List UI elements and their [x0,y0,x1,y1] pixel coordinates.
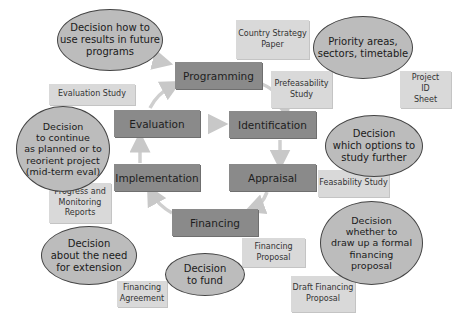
project-cycle-diagram: Programming Identification Appraisal Fin… [0,0,464,322]
phase-identification: Identification [229,111,316,138]
decision-fund: Decision to fund [165,253,245,296]
doc-financing-agreement: Financing Agreement [117,281,167,307]
doc-prefeasability-study: Prefeasability Study [271,71,332,108]
phase-financing: Financing [172,209,258,236]
arrow-decision-programming [155,60,163,62]
decision-continue: Decision to continue as planned or to re… [16,106,110,192]
decision-future-programs: Decision how to use results in future pr… [57,9,163,71]
decision-formal-proposal: Decision whether to draw up a formal fin… [320,201,423,285]
arrow-appraisal-financing [254,192,267,208]
phase-evaluation: Evaluation [114,110,200,137]
decision-options: Decision which options to study further [325,115,423,177]
phase-label: Appraisal [248,172,297,184]
arrow-evaluation-programming [150,86,172,108]
doc-financing-proposal: Financing Proposal [242,238,305,267]
phase-label: Evaluation [129,118,184,130]
arrow-financing-implementation [152,194,172,213]
phase-label: Financing [190,217,240,229]
phase-appraisal: Appraisal [229,164,316,191]
doc-project-id-sheet: Project ID Sheet [400,71,451,108]
phase-label: Identification [238,119,307,131]
decision-priority-areas: Priority areas, sectors, timetable [313,16,413,79]
phase-label: Implementation [115,172,198,184]
doc-evaluation-study: Evaluation Study [49,84,135,105]
phase-programming: Programming [175,62,262,89]
doc-draft-financing-proposal: Draft Financing Proposal [291,276,355,312]
phase-label: Programming [183,70,254,82]
decision-extension: Decision about the need for extension [41,226,137,285]
phase-implementation: Implementation [114,164,200,191]
doc-country-strategy-paper: Country Strategy Paper [236,20,309,59]
